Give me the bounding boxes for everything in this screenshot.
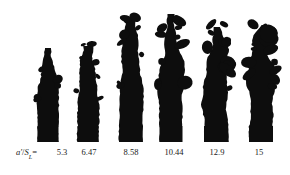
flame-base-block [249,126,273,142]
flame-base-block [78,126,99,142]
flame-base-block [38,126,59,142]
tick-label-ratio-4: 10.44 [164,147,183,157]
flame-wrinkle-lobe [138,51,145,58]
tick-label-ratio-3: 8.58 [124,147,139,157]
flame-wrinkle-lobe [73,88,80,94]
flame-silhouette-layer [0,0,290,175]
axis-label-equals: = [32,147,37,157]
flame-figure: a'/SL= 5.36.478.5810.4412.915 [0,0,290,175]
flame-silhouette [154,13,194,142]
tick-label-ratio-5: 12.9 [210,147,225,157]
flame-wrinkle-lobe [219,20,229,29]
flame-base-block [160,126,183,142]
flame-silhouette [241,17,284,142]
flame-group [32,11,283,142]
flame-silhouette [115,11,145,142]
axis-label-ratio: a'/SL= [16,147,37,159]
axis-label-subscript-l: L [29,153,32,160]
tick-label-ratio-2: 6.47 [82,147,97,157]
flame-silhouette [73,40,105,142]
flame-wrinkle-lobe [246,17,261,31]
tick-label-ratio-1: 5.3 [57,147,68,157]
flame-base-block [204,126,228,142]
flame-silhouette [32,48,64,142]
tick-label-ratio-6: 15 [255,147,264,157]
flame-silhouette [201,17,239,142]
flame-base-block [120,126,143,142]
